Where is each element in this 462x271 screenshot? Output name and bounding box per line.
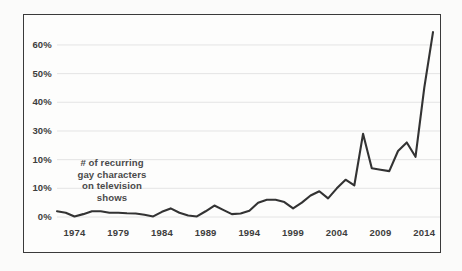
x-axis-tick-label: 1979 [98,228,138,238]
y-axis-tick-label: 50% [18,69,52,79]
annotation-line-3: shows [56,192,168,204]
x-axis-tick-label: 1984 [142,228,182,238]
y-axis-tick-label: 30% [18,126,52,136]
x-axis-tick-label: 1994 [229,228,269,238]
annotation-line-2: on television [56,180,168,192]
y-axis-tick-label: 10% [18,155,52,165]
x-axis-tick-label: 1999 [273,228,313,238]
x-axis-tick-label: 2004 [317,228,357,238]
y-axis-tick-label: 60% [18,40,52,50]
y-axis-tick-label: 0% [18,212,52,222]
annotation-line-0: # of recurring [56,157,168,169]
annotation-line-1: gay characters [56,169,168,181]
chart-annotation-label: # of recurring gay characters on televis… [56,157,168,203]
x-axis-tick-label: 2014 [404,228,444,238]
x-axis-tick-label: 1974 [54,228,94,238]
x-axis-tick-label: 2009 [361,228,401,238]
y-axis-tick-label: 10% [18,183,52,193]
y-axis-tick-label: 40% [18,97,52,107]
x-axis-tick-label: 1989 [186,228,226,238]
chart-container: 60%50%40%30%10%10%0% 1974197919841989199… [0,0,462,271]
